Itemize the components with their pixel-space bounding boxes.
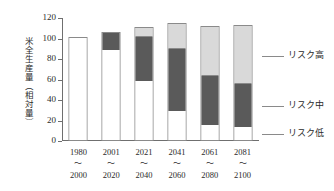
stacked-bar [200,26,219,141]
bar-slot [226,18,259,141]
x-label-start-year: 2081 [226,146,259,158]
stacked-bar [102,32,121,141]
bar-segment-mid [234,84,251,127]
y-axis-label: 米全生産量（相対量） [10,26,32,138]
plot-area: 020406080100120 [62,18,259,141]
x-label-end-year: 2060 [161,169,194,181]
bar-segment-low [168,111,185,140]
x-label-range-dash: 〜 [128,158,161,169]
bar-slot [161,18,194,141]
bar-slot [128,18,161,141]
x-label-range-dash: 〜 [62,158,95,169]
bar-segment-mid [168,49,185,112]
x-tick-label: 2021〜2040 [128,146,161,181]
bar-segment-low [201,125,218,140]
x-label-range-dash: 〜 [95,158,128,169]
bar-slot [62,18,95,141]
x-label-end-year: 2020 [95,169,128,181]
legend-leader-line [262,134,284,135]
chart-figure: 米全生産量（相対量） 020406080100120 1980〜20002001… [0,0,334,191]
x-axis-labels: 1980〜20002001〜20202021〜20402041〜20602061… [62,146,259,188]
x-label-end-year: 2040 [128,169,161,181]
bar-segment-low [234,127,251,140]
x-label-start-year: 2061 [193,146,226,158]
x-label-range-dash: 〜 [193,158,226,169]
bar-segment-high [234,26,251,83]
x-label-end-year: 2080 [193,169,226,181]
bar-segment-high [136,28,153,36]
x-label-range-dash: 〜 [226,158,259,169]
y-tick-label: 20 [47,115,56,125]
x-label-end-year: 2000 [62,169,95,181]
bar-slot [193,18,226,141]
bar-segment-low [136,81,153,140]
x-tick-label: 2041〜2060 [161,146,194,181]
bar-segment-high [201,27,218,76]
y-tick-label: 100 [43,33,57,43]
bar-segment-low [103,50,120,140]
stacked-bar [167,23,186,141]
legend-leader-line [262,56,284,57]
x-label-end-year: 2100 [226,169,259,181]
legend-label: リスク低 [288,128,324,139]
x-label-start-year: 2001 [95,146,128,158]
stacked-bar [69,37,88,142]
bar-slot [95,18,128,141]
x-label-start-year: 2021 [128,146,161,158]
bar-segment-mid [136,37,153,81]
bar-group [62,18,259,141]
bar-segment-mid [201,76,218,124]
x-label-start-year: 2041 [161,146,194,158]
x-tick-label: 2081〜2100 [226,146,259,181]
y-tick-label: 40 [47,94,56,104]
bar-segment-high [168,24,185,49]
bar-segment-mid [103,33,120,49]
legend-leader-line [262,106,284,107]
y-tick-label: 0 [52,135,57,145]
y-tick-label: 60 [47,74,56,84]
x-tick-label: 2061〜2080 [193,146,226,181]
y-tick-label: 120 [43,12,57,22]
x-label-start-year: 1980 [62,146,95,158]
y-tick-label: 80 [47,53,56,63]
stacked-bar [233,25,252,141]
x-tick-label: 2001〜2020 [95,146,128,181]
bar-segment-low [70,38,87,141]
legend-label: リスク中 [288,100,324,111]
legend-label: リスク高 [288,50,324,61]
stacked-bar [135,27,154,141]
y-tick-mark [58,141,62,142]
x-tick-label: 1980〜2000 [62,146,95,181]
x-label-range-dash: 〜 [161,158,194,169]
